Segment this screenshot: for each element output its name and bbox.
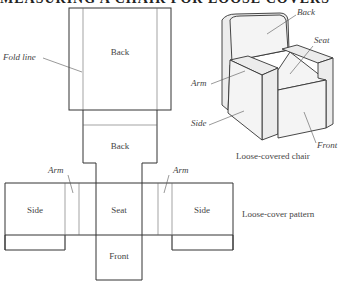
label-back-top: Back [111,47,130,57]
chair-callout-front: Front [316,140,338,150]
label-seat: Seat [111,205,127,215]
back-top-panel [69,8,171,110]
side-left-flap [5,235,65,250]
chair-illustration: Back Seat Arm Side Front Loose-covered c… [190,7,338,161]
chair-front [278,80,326,138]
pattern-caption: Loose-cover pattern [242,209,315,219]
callout-arm-right: Arm [172,165,189,175]
chair-callout-seat: Seat [314,35,330,45]
diagram-canvas: Back Back Seat Side Side Front Fold line… [0,0,339,283]
label-side-left: Side [27,205,43,215]
chair-callout-arm: Arm [190,78,207,88]
callout-arm-left: Arm [47,165,64,175]
callout-fold-line: Fold line [2,52,36,62]
label-back-inner: Back [111,141,130,151]
chair-callout-back: Back [297,7,316,17]
label-side-right: Side [194,205,210,215]
label-front: Front [109,251,129,261]
chair-caption: Loose-covered chair [236,151,310,161]
side-right-flap [172,235,233,250]
chair-callout-side: Side [191,118,207,128]
